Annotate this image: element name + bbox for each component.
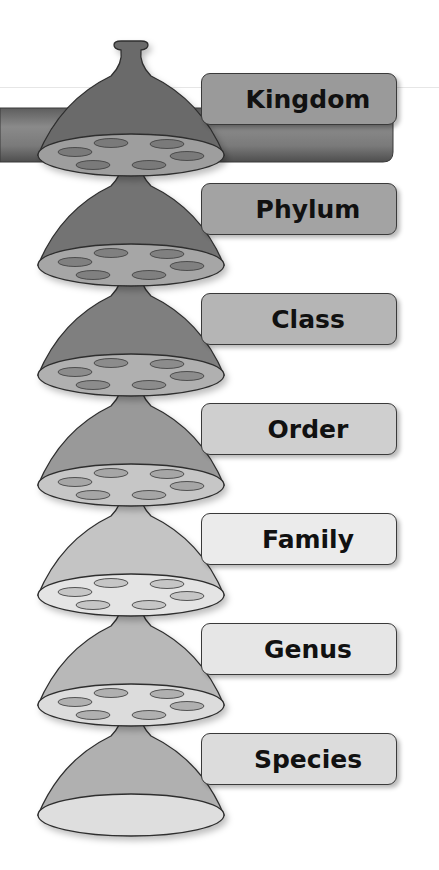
- level-label-text: Kingdom: [228, 85, 371, 114]
- rim-hole: [76, 491, 110, 500]
- rim-hole: [58, 588, 92, 597]
- rim-hole: [150, 360, 184, 369]
- rim-hole: [94, 359, 128, 368]
- rim-hole: [76, 161, 110, 170]
- rim-hole: [58, 368, 92, 377]
- rim-hole: [170, 152, 204, 161]
- label-kingdom: Kingdom: [201, 73, 397, 125]
- level-label-text: Phylum: [238, 195, 361, 224]
- rim-hole: [170, 372, 204, 381]
- rim-hole: [132, 381, 166, 390]
- rim-hole: [58, 148, 92, 157]
- rim-hole: [58, 478, 92, 487]
- level-label-text: Family: [244, 525, 354, 554]
- rim-hole: [132, 491, 166, 500]
- rim-hole: [76, 711, 110, 720]
- rim-hole: [76, 271, 110, 280]
- rim-hole: [132, 161, 166, 170]
- rim-hole: [94, 579, 128, 588]
- rim-hole: [150, 580, 184, 589]
- rim-hole: [94, 469, 128, 478]
- label-species: Species: [201, 733, 397, 785]
- rim-hole: [58, 258, 92, 267]
- label-phylum: Phylum: [201, 183, 397, 235]
- level-label-text: Order: [250, 415, 349, 444]
- rim-hole: [132, 271, 166, 280]
- rim-hole: [94, 689, 128, 698]
- label-family: Family: [201, 513, 397, 565]
- rim-hole: [76, 381, 110, 390]
- label-order: Order: [201, 403, 397, 455]
- rim-hole: [132, 711, 166, 720]
- rim-hole: [150, 690, 184, 699]
- bell-rim: [38, 794, 224, 836]
- rim-hole: [170, 482, 204, 491]
- rim-hole: [170, 592, 204, 601]
- level-label-text: Class: [253, 305, 345, 334]
- level-label-text: Species: [236, 745, 362, 774]
- rim-hole: [58, 698, 92, 707]
- rim-hole: [150, 470, 184, 479]
- rim-hole: [94, 139, 128, 148]
- rim-hole: [170, 702, 204, 711]
- rim-hole: [94, 249, 128, 258]
- rim-hole: [150, 140, 184, 149]
- label-genus: Genus: [201, 623, 397, 675]
- level-label-text: Genus: [246, 635, 352, 664]
- label-class: Class: [201, 293, 397, 345]
- rim-hole: [76, 601, 110, 610]
- rim-hole: [150, 250, 184, 259]
- rim-hole: [132, 601, 166, 610]
- rim-hole: [170, 262, 204, 271]
